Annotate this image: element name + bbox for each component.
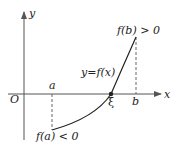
point-a-label: a — [49, 79, 56, 92]
x-axis-label: x — [164, 88, 171, 101]
intermediate-value-diagram: y x O a b ξ y=f(x) f(b) > 0 f(a) < 0 — [0, 0, 178, 155]
curve-label: y=f(x) — [80, 66, 115, 79]
point-b-label: b — [132, 95, 139, 108]
fb-annotation: f(b) > 0 — [116, 24, 160, 37]
curve-f — [52, 37, 136, 130]
root-label: ξ — [108, 96, 114, 109]
fa-annotation: f(a) < 0 — [35, 130, 78, 143]
origin-label: O — [10, 93, 19, 106]
y-axis-label: y — [28, 7, 36, 20]
